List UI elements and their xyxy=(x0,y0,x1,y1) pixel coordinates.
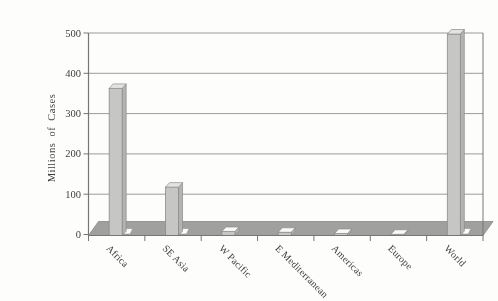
y-tick-label-0: 0 xyxy=(76,229,81,240)
category-label-africa: Africa xyxy=(104,243,131,270)
y-tick-label-300: 300 xyxy=(65,108,81,119)
bar-africa xyxy=(109,84,133,236)
category-label-se-asia: SE Asia xyxy=(161,243,193,275)
category-label-w-pacific: W Pacific xyxy=(217,243,254,280)
category-label-world: World xyxy=(442,243,468,269)
category-label-europe: Europe xyxy=(386,243,415,272)
y-tick-label-400: 400 xyxy=(65,68,81,79)
millions-of-cases-bar-chart: 0100200300400500AfricaSE AsiaW PacificE … xyxy=(40,16,498,301)
bar-front-face xyxy=(447,34,460,236)
bar-side-face xyxy=(122,84,126,236)
category-label-americas: Americas xyxy=(330,243,366,279)
bar-front-face xyxy=(166,187,179,235)
category-label-e-mediterranean: E Mediterranean xyxy=(273,243,330,300)
y-tick-label-100: 100 xyxy=(65,189,81,200)
bar-world xyxy=(447,30,471,236)
y-axis-title: Millions of Cases xyxy=(46,94,57,183)
y-tick-label-500: 500 xyxy=(65,28,81,39)
bar-front-face xyxy=(109,88,122,235)
bar-front-face xyxy=(222,231,235,235)
bar-w-pacific xyxy=(222,227,239,236)
bar-side-face xyxy=(179,183,183,236)
bar-side-face xyxy=(460,30,464,236)
bar-chart-figure: 0100200300400500AfricaSE AsiaW PacificE … xyxy=(40,16,498,301)
y-tick-label-200: 200 xyxy=(65,148,81,159)
bar-e-mediterranean xyxy=(278,228,295,236)
